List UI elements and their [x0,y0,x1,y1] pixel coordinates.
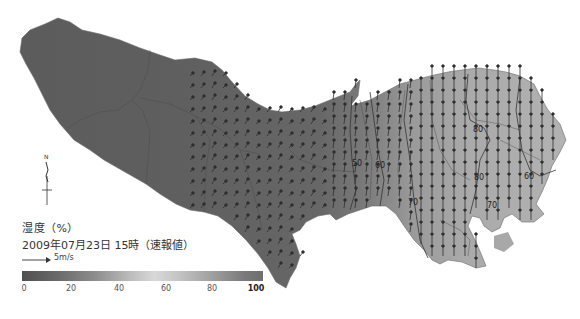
svg-text:N: N [44,153,49,160]
bay-island [494,232,514,252]
colorbar-tick: 40 [114,284,124,293]
humidity-colorbar [22,271,263,281]
north-arrow-icon: N [42,153,52,205]
colorbar-tick: 100 [248,284,265,293]
colorbar-tick: 20 [66,284,76,293]
colorbar-tick: 80 [207,284,217,293]
contour-label: 60 [375,161,385,170]
colorbar-tick: 60 [161,284,171,293]
contour-label: 60 [524,172,534,181]
contour-label: 70 [487,201,497,210]
colorbar-tick: 0 [21,284,26,293]
wind-scale-label: 5m/s [54,253,74,262]
legend-datetime: 2009年07月23日 15時（速報値） [22,236,194,252]
legend-title: 湿度（%） [22,219,79,235]
